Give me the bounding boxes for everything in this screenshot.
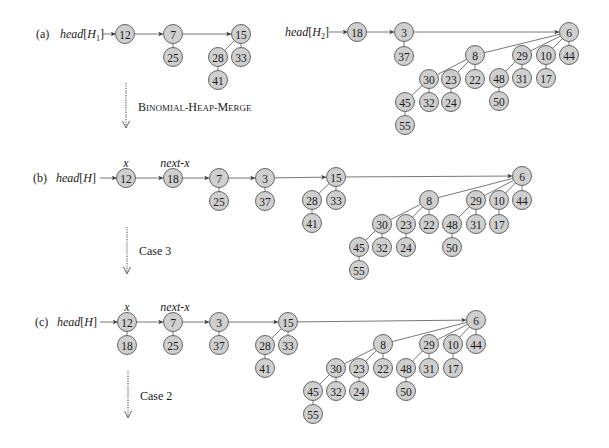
node-key: 18 [351, 27, 363, 39]
heap-node-25: 25 [210, 192, 229, 211]
transition-label: BINOMIAL-HEAP-MERGE [138, 100, 252, 114]
node-key: 50 [446, 242, 458, 254]
node-key: 6 [519, 171, 525, 183]
heap-node-45: 45 [304, 382, 323, 401]
heap-node-41: 41 [303, 214, 322, 233]
heap-node-23: 23 [442, 70, 461, 89]
tree-edge [366, 231, 376, 241]
heap-node-8: 8 [374, 335, 393, 354]
heap-node-31: 31 [513, 69, 532, 88]
node-key: 44 [516, 195, 528, 207]
heap-node-33: 33 [327, 191, 346, 210]
head-pointer-label: head[H] [57, 315, 97, 329]
heap-node-37: 37 [256, 192, 275, 211]
heap-node-7: 7 [164, 25, 183, 44]
head-text: head [60, 27, 84, 41]
node-key: 17 [447, 363, 459, 375]
node-key: 31 [470, 219, 482, 231]
node-key: 48 [400, 363, 412, 375]
transition-label: Case 3 [139, 244, 171, 258]
panel-label: (a) [36, 27, 49, 41]
heap-node-12: 12 [117, 169, 136, 188]
heap-node-50: 50 [397, 382, 416, 401]
head-pointer-label: head[H1] [60, 27, 104, 43]
pointer-label-x: x [122, 156, 129, 170]
root-list-link [345, 176, 512, 177]
node-key: 25 [167, 340, 179, 352]
node-key: 17 [540, 73, 552, 85]
node-key: 22 [377, 363, 389, 375]
node-key: 28 [259, 340, 271, 352]
heap-node-44: 44 [513, 191, 532, 210]
heap-node-45: 45 [350, 238, 369, 257]
heap-node-28: 28 [303, 191, 322, 210]
pointer-label-x: x [123, 300, 130, 314]
panel-label: (b) [33, 171, 47, 185]
head-pointer-label: head[H2] [285, 25, 329, 41]
heap-node-33: 33 [279, 336, 298, 355]
heap-node-55: 55 [350, 261, 369, 280]
heap-node-41: 41 [256, 359, 275, 378]
node-key: 37 [213, 340, 225, 352]
node-key: 30 [376, 219, 388, 231]
heap-node-37: 37 [210, 336, 229, 355]
node-key: 29 [516, 50, 528, 62]
tree-edge [459, 207, 470, 218]
node-key: 24 [353, 386, 365, 398]
heap-node-15: 15 [327, 168, 346, 187]
node-key: 8 [380, 339, 386, 351]
node-key: 3 [401, 27, 407, 39]
heap-node-18: 18 [118, 336, 137, 355]
node-key: 31 [423, 363, 435, 375]
heap-node-41: 41 [209, 71, 228, 90]
node-key: 29 [423, 339, 435, 351]
pointer-label-next-x: next-x [160, 300, 190, 314]
node-key: 33 [282, 340, 294, 352]
heap-node-17: 17 [444, 359, 463, 378]
node-key: 12 [121, 317, 133, 329]
node-key: 7 [170, 29, 176, 41]
root-list-link [274, 177, 326, 178]
heap-node-7: 7 [164, 313, 183, 332]
node-key: 33 [235, 52, 247, 64]
heap-node-29: 29 [513, 46, 532, 65]
heap-node-12: 12 [116, 25, 135, 44]
node-key: 32 [376, 242, 388, 254]
node-key: 29 [470, 195, 482, 207]
node-key: 45 [399, 97, 411, 109]
node-key: 15 [330, 172, 342, 184]
panel-c: (c)head[H]xnext-x12187253371528334168291… [35, 300, 486, 424]
heap-node-18: 18 [348, 23, 367, 42]
node-key: 18 [167, 173, 179, 185]
heap-node-6: 6 [467, 311, 486, 330]
node-key: 15 [235, 29, 247, 41]
heap-node-17: 17 [537, 69, 556, 88]
node-key: 37 [398, 51, 410, 63]
heap-node-37: 37 [395, 47, 414, 66]
tree-edge [413, 351, 423, 361]
node-key: 24 [400, 242, 412, 254]
node-key: 48 [493, 73, 505, 85]
panel-label: (c) [35, 315, 48, 329]
heap-node-8: 8 [420, 191, 439, 210]
pointer-label-next-x: next-x [160, 156, 190, 170]
node-key: 12 [119, 29, 131, 41]
node-key: 25 [167, 52, 179, 64]
node-key: 44 [470, 339, 482, 351]
heap-node-55: 55 [396, 116, 415, 135]
heap-node-32: 32 [373, 238, 392, 257]
heap-node-8: 8 [466, 46, 485, 65]
node-key: 48 [446, 219, 458, 231]
heap-node-10: 10 [537, 46, 556, 65]
node-key: 23 [353, 363, 365, 375]
binomial-heap-diagram: (a)head[H1]head[H2]127251528334118337682… [0, 0, 609, 448]
node-key: 41 [306, 218, 318, 230]
node-key: 28 [306, 195, 318, 207]
node-key: 28 [212, 52, 224, 64]
node-key: 33 [330, 195, 342, 207]
bracket-close: ] [93, 315, 97, 329]
node-key: 6 [566, 27, 572, 39]
node-key: 22 [423, 219, 435, 231]
heap-node-24: 24 [442, 93, 461, 112]
node-key: 45 [307, 386, 319, 398]
